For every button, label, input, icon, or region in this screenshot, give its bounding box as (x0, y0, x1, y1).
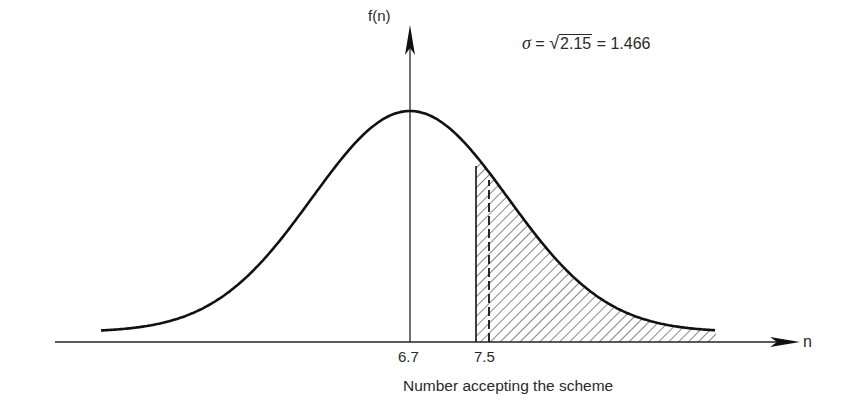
sigma-result: 1.466 (610, 35, 650, 52)
y-axis-label: f(n) (368, 7, 391, 24)
radicand: 2.15 (559, 34, 592, 52)
normal-distribution-diagram (0, 0, 851, 412)
normal-curve (101, 111, 715, 331)
sigma-formula: σ = √2.15 = 1.466 (522, 33, 650, 54)
equals-sign-2: = (597, 35, 606, 52)
shaded-tail-region (476, 156, 716, 342)
sigma-symbol: σ (522, 33, 531, 53)
mean-tick-label: 6.7 (398, 348, 419, 365)
threshold-tick-label: 7.5 (474, 348, 495, 365)
equals-sign: = (535, 35, 544, 52)
sqrt-icon: √ (549, 33, 559, 53)
x-axis-label: n (803, 333, 812, 351)
x-axis-title: Number accepting the scheme (403, 377, 613, 395)
